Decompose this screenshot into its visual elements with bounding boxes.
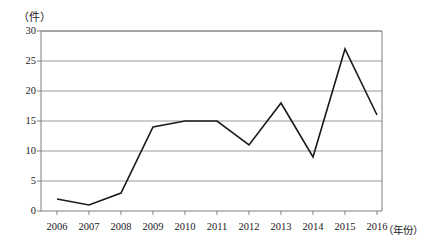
gridlines	[41, 31, 382, 181]
data-series-line	[57, 49, 377, 205]
y-axis-ticks	[37, 31, 41, 211]
plot-area	[0, 0, 435, 245]
x-axis-ticks	[57, 211, 377, 215]
line-chart: （件） 30 25 20 15 10 5 0 2006 2007 2008 20…	[0, 0, 435, 245]
